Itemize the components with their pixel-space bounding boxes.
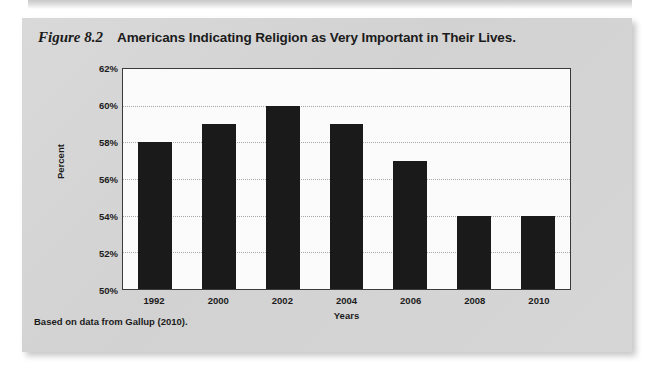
bar-slot bbox=[251, 69, 315, 289]
bar-slot bbox=[442, 69, 506, 289]
y-tick-label: 60% bbox=[99, 100, 118, 111]
bar-chart: Percent 62% 60% 58% 56% 54% 52% 50% bbox=[22, 18, 632, 318]
figure-source-note: Based on data from Gallup (2010). bbox=[34, 316, 188, 327]
x-tick-label: 2000 bbox=[186, 295, 250, 306]
x-tick-label: 2002 bbox=[250, 295, 314, 306]
bar bbox=[202, 124, 236, 289]
y-axis-tick-labels: 62% 60% 58% 56% 54% 52% 50% bbox=[78, 68, 118, 290]
x-axis-title: Years bbox=[122, 310, 571, 321]
bar-slot bbox=[506, 69, 570, 289]
y-tick-label: 54% bbox=[99, 211, 118, 222]
bar bbox=[330, 124, 364, 289]
bar bbox=[521, 216, 555, 289]
bar-series bbox=[123, 69, 570, 289]
y-axis-title: Percent bbox=[55, 144, 66, 179]
x-tick-label: 2010 bbox=[507, 295, 571, 306]
bar-slot bbox=[378, 69, 442, 289]
y-tick-label: 62% bbox=[99, 63, 118, 74]
bar bbox=[457, 216, 491, 289]
y-tick-label: 58% bbox=[99, 136, 118, 147]
x-tick-label: 2004 bbox=[314, 295, 378, 306]
bar bbox=[138, 142, 172, 289]
bar-slot bbox=[187, 69, 251, 289]
bar bbox=[266, 106, 300, 289]
bar-slot bbox=[315, 69, 379, 289]
page-top-band bbox=[28, 0, 632, 9]
bar bbox=[393, 161, 427, 289]
x-axis-tick-labels: 1992 2000 2002 2004 2006 2008 2010 bbox=[122, 295, 571, 306]
y-tick-label: 50% bbox=[99, 285, 118, 296]
x-tick-label: 2008 bbox=[443, 295, 507, 306]
figure-panel: Figure 8.2Americans Indicating Religion … bbox=[22, 18, 632, 352]
x-tick-label: 1992 bbox=[122, 295, 186, 306]
bar-slot bbox=[123, 69, 187, 289]
x-tick-label: 2006 bbox=[379, 295, 443, 306]
y-tick-label: 56% bbox=[99, 174, 118, 185]
plot-area bbox=[122, 68, 571, 290]
y-tick-label: 52% bbox=[99, 247, 118, 258]
